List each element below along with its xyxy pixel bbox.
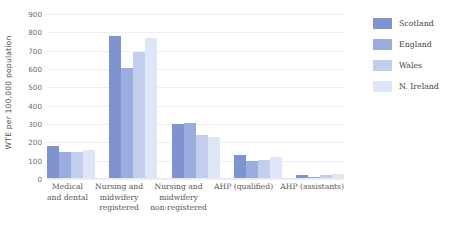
bar[interactable] xyxy=(234,155,246,179)
gridline-0: 0 xyxy=(47,179,344,180)
bar[interactable] xyxy=(196,135,208,179)
y-tick-label: 600 xyxy=(28,65,42,74)
x-axis-label-line: midwifery xyxy=(95,193,143,204)
y-tick-label: 800 xyxy=(28,28,42,37)
y-tick-label: 400 xyxy=(28,101,42,110)
x-axis-label-line: Medical xyxy=(47,182,88,193)
bar[interactable] xyxy=(121,68,133,179)
bar-chart: WTE per 100,000 population 0100200300400… xyxy=(0,0,467,241)
bar-groups xyxy=(47,14,344,179)
y-axis-title-text: WTE per 100,000 population xyxy=(5,36,14,150)
legend-item[interactable]: Scotland xyxy=(373,14,465,33)
bar-group xyxy=(172,14,220,179)
x-axis-label: AHP (assistants) xyxy=(280,182,344,240)
bar[interactable] xyxy=(109,36,121,179)
bar-group xyxy=(47,14,95,179)
x-axis-label: AHP (qualified) xyxy=(214,182,273,240)
bar[interactable] xyxy=(83,150,95,179)
bar[interactable] xyxy=(184,123,196,179)
legend-label: Scotland xyxy=(399,19,434,28)
legend-label: England xyxy=(399,40,432,49)
bar[interactable] xyxy=(59,152,71,180)
bar[interactable] xyxy=(246,161,258,179)
bar-group xyxy=(109,14,157,179)
x-axis-label-line: midwifery xyxy=(150,193,207,204)
y-tick-label: 100 xyxy=(28,156,42,165)
axis-baseline xyxy=(47,178,344,179)
x-axis-labels: Medicaland dentalNursing andmidwiferyreg… xyxy=(47,182,344,240)
bar[interactable] xyxy=(133,52,145,179)
bar[interactable] xyxy=(145,38,157,179)
bar-group xyxy=(296,14,344,179)
legend-swatch xyxy=(373,60,392,71)
y-tick-label: 200 xyxy=(28,138,42,147)
x-axis-label-line: Nursing and xyxy=(150,182,207,193)
x-axis-label-line: and dental xyxy=(47,193,88,204)
bar[interactable] xyxy=(71,152,83,180)
bar[interactable] xyxy=(208,137,220,179)
legend: ScotlandEnglandWalesN. Ireland xyxy=(373,14,465,98)
y-tick-label: 500 xyxy=(28,83,42,92)
bar-group xyxy=(234,14,282,179)
bar[interactable] xyxy=(172,124,184,179)
x-axis-label-line: Nursing and xyxy=(95,182,143,193)
plot-area: 0100200300400500600700800900 xyxy=(47,14,344,179)
x-axis-label-line: registered xyxy=(95,203,143,214)
legend-swatch xyxy=(373,81,392,92)
y-tick-label: 700 xyxy=(28,46,42,55)
legend-swatch xyxy=(373,18,392,29)
legend-item[interactable]: England xyxy=(373,35,465,54)
bar[interactable] xyxy=(47,146,59,179)
y-axis-title: WTE per 100,000 population xyxy=(2,0,16,185)
bar[interactable] xyxy=(258,160,270,179)
x-axis-label-line: AHP (assistants) xyxy=(280,182,344,193)
legend-label: N. Ireland xyxy=(399,82,439,91)
x-axis-label: Medicaland dental xyxy=(47,182,88,240)
x-axis-label-line: non-registered xyxy=(150,203,207,214)
legend-swatch xyxy=(373,39,392,50)
y-tick-label: 900 xyxy=(28,10,42,19)
bar[interactable] xyxy=(270,157,282,179)
x-axis-label-line: AHP (qualified) xyxy=(214,182,273,193)
x-axis-label: Nursing andmidwiferyregistered xyxy=(95,182,143,240)
y-tick-label: 300 xyxy=(28,120,42,129)
legend-item[interactable]: Wales xyxy=(373,56,465,75)
legend-item[interactable]: N. Ireland xyxy=(373,77,465,96)
x-axis-label: Nursing andmidwiferynon-registered xyxy=(150,182,207,240)
y-tick-label: 0 xyxy=(37,175,42,184)
legend-label: Wales xyxy=(399,61,422,70)
